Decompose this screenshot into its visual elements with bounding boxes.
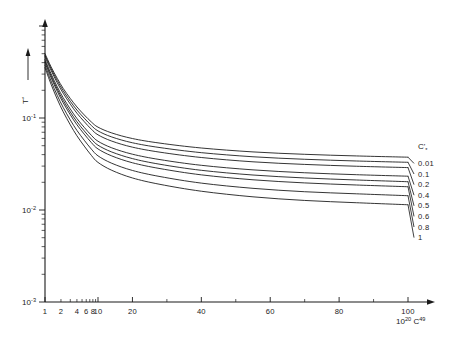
legend-item-label: 0.01 — [418, 159, 434, 168]
x-axis-arrowhead — [427, 299, 435, 305]
x-axis-tick-label: 60 — [266, 307, 275, 316]
legend-item-label: 0.4 — [418, 191, 429, 200]
x-axis-tick-label: 4 — [75, 307, 79, 316]
svg-text:1020 C49: 1020 C49 — [396, 316, 425, 326]
legend-leader-line — [408, 168, 414, 185]
legend-title: C'* — [418, 142, 428, 153]
x-axis-tick-label: 2 — [59, 307, 63, 316]
x-axis-tick-label: 40 — [197, 307, 206, 316]
legend-group: C'*0.010.10.20.40.50.60.81 — [418, 142, 434, 242]
data-curve — [45, 60, 408, 177]
x-axis-title: 1020 C49 — [396, 316, 425, 326]
legend-leader-line — [408, 162, 414, 174]
legend-item-label: 0.5 — [418, 201, 429, 210]
x-axis-tick-labels: 124681020406080100 — [43, 307, 415, 316]
x-axis-ticks — [45, 297, 408, 302]
chart-page: 10-110-210-3 124681020406080100 C'*0.010… — [0, 0, 450, 347]
x-axis-tick-label: 100 — [401, 307, 414, 316]
chart-plot-area: 10-110-210-3 124681020406080100 C'*0.010… — [0, 0, 450, 347]
legend-item-label: 0.6 — [418, 212, 429, 221]
legend-leader-line — [408, 157, 414, 163]
y-axis-ticks — [39, 26, 45, 302]
y-axis-tick-label: 10-2 — [22, 205, 36, 215]
x-axis-tick-label: 6 — [84, 307, 88, 316]
y-axis-tick-label: 10-3 — [22, 297, 36, 307]
legend-leader-lines — [408, 157, 414, 237]
x-axis-tick-label: 1 — [43, 307, 47, 316]
y-axis-tick-labels: 10-110-210-3 — [22, 113, 36, 307]
data-curve — [45, 65, 408, 196]
x-axis-tick-label: 20 — [128, 307, 137, 316]
x-axis-tick-label: 80 — [335, 307, 344, 316]
data-curve — [45, 57, 408, 168]
y-axis-tick-label: 10-1 — [22, 113, 36, 123]
data-curves-group — [45, 54, 408, 205]
x-axis-title-exp2: 49 — [419, 316, 425, 322]
legend-item-label: 0.1 — [418, 170, 429, 179]
legend-item-label: 0.2 — [418, 180, 429, 189]
legend-item-label: 1 — [418, 233, 423, 242]
y-axis-title: T* — [21, 48, 31, 104]
legend-item-label: 0.8 — [418, 223, 429, 232]
x-axis-tick-label: 10 — [94, 307, 103, 316]
y-axis-title-star: * — [21, 96, 27, 99]
data-curve — [45, 68, 408, 205]
svg-text:T*: T* — [21, 96, 31, 104]
y-axis-title-arrowhead — [26, 48, 31, 56]
